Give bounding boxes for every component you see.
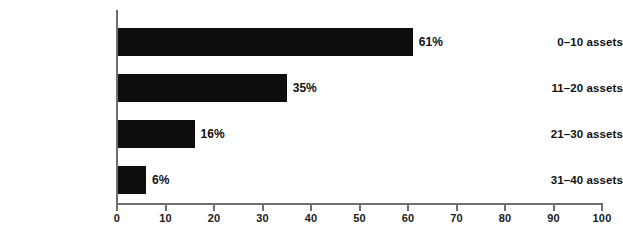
bar-value-2: 16% <box>201 120 225 148</box>
plot-area: 0–10 assets 11–20 assets 21–30 assets 31… <box>0 0 623 248</box>
x-tick-label-80: 80 <box>499 212 512 224</box>
bar-2 <box>118 120 195 148</box>
bar-value-3: 6% <box>152 166 169 194</box>
bar-value-1: 35% <box>293 74 317 102</box>
x-tick-label-30: 30 <box>256 212 269 224</box>
x-tick-0 <box>116 205 118 211</box>
bar-0 <box>118 28 413 56</box>
x-tick-label-50: 50 <box>353 212 366 224</box>
x-tick-label-20: 20 <box>208 212 221 224</box>
bar-1 <box>118 74 287 102</box>
x-tick-label-0: 0 <box>114 212 120 224</box>
category-label-3: 31–40 assets <box>519 174 623 186</box>
x-tick-10 <box>165 205 167 211</box>
x-tick-30 <box>262 205 264 211</box>
x-tick-70 <box>456 205 458 211</box>
x-tick-label-60: 60 <box>402 212 415 224</box>
x-tick-90 <box>553 205 555 211</box>
x-tick-label-40: 40 <box>305 212 318 224</box>
x-tick-40 <box>310 205 312 211</box>
x-tick-100 <box>601 205 603 211</box>
category-label-2: 21–30 assets <box>519 128 623 140</box>
category-label-0: 0–10 assets <box>519 36 623 48</box>
x-tick-label-90: 90 <box>547 212 560 224</box>
x-tick-label-70: 70 <box>450 212 463 224</box>
bar-value-0: 61% <box>419 28 443 56</box>
x-tick-60 <box>407 205 409 211</box>
x-tick-label-100: 100 <box>593 212 612 224</box>
bar-chart: 0–10 assets 11–20 assets 21–30 assets 31… <box>0 0 623 248</box>
x-tick-label-10: 10 <box>159 212 172 224</box>
x-tick-80 <box>504 205 506 211</box>
category-label-1: 11–20 assets <box>519 82 623 94</box>
bar-3 <box>118 166 146 194</box>
x-tick-50 <box>359 205 361 211</box>
x-tick-20 <box>213 205 215 211</box>
